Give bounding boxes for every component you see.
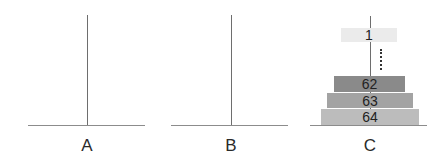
peg-b-rod	[231, 15, 232, 125]
ellipsis-dotted-line	[380, 49, 382, 70]
peg-a-base	[28, 125, 145, 126]
disk-64-label: 64	[362, 110, 378, 124]
peg-b-label: B	[216, 136, 246, 156]
peg-b-base	[171, 125, 288, 126]
disk-62: 62	[334, 76, 405, 92]
disk-64: 64	[321, 109, 419, 125]
peg-a-label: A	[72, 136, 102, 156]
disk-1-label: 1	[365, 28, 373, 42]
disk-63-label: 63	[362, 94, 378, 108]
disk-1: 1	[341, 28, 397, 42]
disk-62-label: 62	[362, 77, 378, 91]
disk-63: 63	[327, 93, 413, 108]
tower-of-hanoi-diagram: A B C 1 62 63 64	[0, 0, 447, 160]
peg-a-rod	[87, 15, 88, 125]
peg-c-label: C	[355, 136, 385, 156]
peg-c-base	[310, 125, 427, 126]
